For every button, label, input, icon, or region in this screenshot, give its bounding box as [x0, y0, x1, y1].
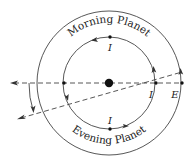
- inferior-label-top: I: [107, 42, 113, 53]
- earth-point: [180, 81, 183, 84]
- orbit-arrow-top-icon: [91, 37, 98, 42]
- inferior-label-bottom: I: [107, 115, 113, 126]
- planet-left-point: [62, 81, 65, 84]
- angle-arc: [29, 83, 33, 110]
- morning-planet-label: Morning Planet: [65, 13, 154, 39]
- planet-right-point: [154, 81, 157, 84]
- planet-top-point: [108, 35, 111, 38]
- sun: [105, 79, 113, 87]
- slanted-sightline: [21, 72, 182, 118]
- orbit-diagram: Morning Planet Evening Planet I I I E: [0, 0, 193, 164]
- planet-bottom-point: [108, 127, 111, 130]
- angle-arrow-icon: [31, 106, 36, 114]
- earth-label: E: [170, 89, 179, 100]
